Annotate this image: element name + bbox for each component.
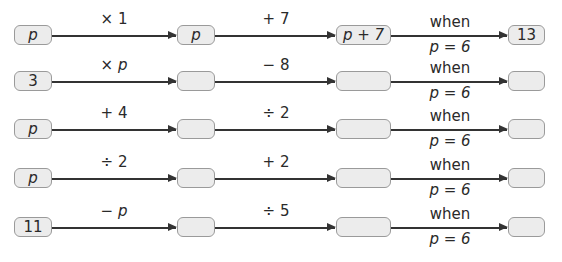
arrow-right-icon <box>52 227 176 229</box>
result-box[interactable] <box>508 217 545 237</box>
when-label: when <box>410 107 490 125</box>
operation-2-label: ÷ 5 <box>236 202 316 220</box>
intermediate-box[interactable] <box>177 119 215 139</box>
intermediate-box[interactable] <box>177 168 215 188</box>
result-box[interactable] <box>508 119 545 139</box>
arrow-right-icon <box>391 178 507 180</box>
intermediate-box[interactable]: p <box>177 25 215 45</box>
operation-1-label: − p <box>74 202 154 220</box>
operation-1-label: × p <box>74 56 154 74</box>
arrow-right-icon <box>52 35 176 37</box>
condition-label: p = 6 <box>410 84 490 102</box>
arrow-right-icon <box>52 129 176 131</box>
operation-2-label: + 7 <box>236 10 316 28</box>
condition-label: p = 6 <box>410 181 490 199</box>
arrow-right-icon <box>391 129 507 131</box>
operation-2-label: − 8 <box>236 56 316 74</box>
operation-2-label: + 2 <box>236 153 316 171</box>
intermediate-box[interactable] <box>177 71 215 91</box>
start-box: 3 <box>14 71 52 91</box>
arrow-right-icon <box>215 178 335 180</box>
condition-label: p = 6 <box>410 230 490 248</box>
expression-box[interactable] <box>336 71 391 91</box>
when-label: when <box>410 13 490 31</box>
machine-row-4: p ÷ 2 + 2 when p = 6 <box>0 153 562 203</box>
start-box: 11 <box>14 217 52 237</box>
when-label: when <box>410 59 490 77</box>
operation-2-label: ÷ 2 <box>236 104 316 122</box>
machine-row-1: p × 1 p + 7 p + 7 when p = 6 13 <box>0 10 562 60</box>
expression-box[interactable] <box>336 119 391 139</box>
operation-1-label: × 1 <box>74 10 154 28</box>
result-box[interactable] <box>508 168 545 188</box>
arrow-right-icon <box>391 81 507 83</box>
arrow-right-icon <box>52 178 176 180</box>
arrow-right-icon <box>215 81 335 83</box>
start-box: p <box>14 119 52 139</box>
operation-1-label: + 4 <box>74 104 154 122</box>
result-box[interactable] <box>508 71 545 91</box>
condition-label: p = 6 <box>410 132 490 150</box>
when-label: when <box>410 156 490 174</box>
arrow-right-icon <box>52 81 176 83</box>
arrow-right-icon <box>391 35 507 37</box>
machine-row-5: 11 − p ÷ 5 when p = 6 <box>0 202 562 252</box>
when-label: when <box>410 205 490 223</box>
condition-label: p = 6 <box>410 38 490 56</box>
arrow-right-icon <box>391 227 507 229</box>
expression-box[interactable] <box>336 217 391 237</box>
start-box: p <box>14 25 52 45</box>
expression-box[interactable] <box>336 168 391 188</box>
arrow-right-icon <box>215 35 335 37</box>
machine-row-2: 3 × p − 8 when p = 6 <box>0 56 562 106</box>
arrow-right-icon <box>215 227 335 229</box>
start-box: p <box>14 168 52 188</box>
intermediate-box[interactable] <box>177 217 215 237</box>
result-box[interactable]: 13 <box>508 25 545 45</box>
machine-row-3: p + 4 ÷ 2 when p = 6 <box>0 104 562 154</box>
operation-1-label: ÷ 2 <box>74 153 154 171</box>
arrow-right-icon <box>215 129 335 131</box>
expression-box[interactable]: p + 7 <box>336 25 391 45</box>
